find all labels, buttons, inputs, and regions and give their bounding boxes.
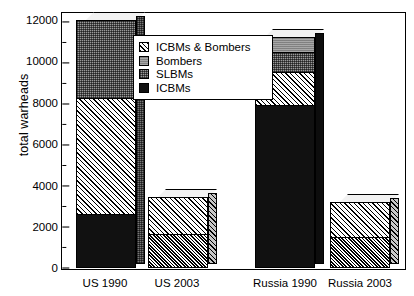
legend-swatch-bombers-icon (139, 56, 149, 66)
bar-chart: total warheads 12000 10000 8000 6000 400… (0, 0, 414, 296)
x-tick-russia-1990: Russia 1990 (253, 277, 317, 289)
y-tick-2000: 2000 (12, 222, 58, 234)
plot-area: ICBMs & Bombers Bombers SLBMs ICBMs (61, 12, 406, 270)
y-axis-tick-labels: 12000 10000 8000 6000 4000 2000 0 (6, 0, 58, 296)
legend-item-slbms: SLBMs (139, 68, 265, 81)
bar-side-face-russia-2003 (390, 198, 399, 264)
segment-us-2003-icbms-bombers-upper (149, 198, 207, 234)
legend-label-icbms: ICBMs (156, 82, 191, 94)
segment-us-1990-icbms-bombers (77, 98, 135, 214)
legend-swatch-icbms-icon (139, 83, 149, 93)
y-tick-0: 0 (12, 263, 58, 275)
bar-us-1990 (76, 12, 136, 268)
y-tick-10000: 10000 (12, 56, 58, 68)
legend: ICBMs & Bombers Bombers SLBMs ICBMs (133, 35, 273, 100)
legend-label-slbms: SLBMs (156, 68, 193, 80)
segment-russia-2003-icbms-bombers-lower (331, 237, 389, 268)
legend-item-bombers: Bombers (139, 54, 265, 67)
segment-russia-2003-icbms-bombers-upper (331, 203, 389, 237)
segment-us-2003-icbms-bombers-lower (149, 234, 207, 268)
legend-swatch-icbms-bombers-icon (139, 42, 149, 52)
segment-us-1990-slbms (77, 21, 135, 98)
segment-russia-1990-icbms (256, 105, 314, 268)
y-tick-6000: 6000 (12, 139, 58, 151)
bar-russia-2003 (330, 12, 390, 268)
x-tick-us-2003: US 2003 (155, 277, 200, 289)
bar-side-face-us-2003 (208, 193, 217, 264)
legend-item-icbms: ICBMs (139, 81, 265, 94)
bar-side-face-russia-1990 (315, 33, 324, 264)
legend-item-icbms-bombers: ICBMs & Bombers (139, 41, 265, 54)
legend-label-bombers: Bombers (156, 55, 202, 67)
x-tick-russia-2003: Russia 2003 (328, 277, 392, 289)
legend-label-icbms-bombers: ICBMs & Bombers (156, 41, 251, 53)
bar-front-us-2003 (148, 197, 208, 268)
legend-swatch-slbms-icon (139, 69, 149, 79)
bar-front-us-1990 (76, 20, 136, 268)
bar-front-russia-2003 (330, 202, 390, 268)
segment-us-1990-icbms (77, 214, 135, 268)
x-tick-us-1990: US 1990 (83, 277, 128, 289)
y-tick-8000: 8000 (12, 98, 58, 110)
y-tick-4000: 4000 (12, 181, 58, 193)
y-tick-12000: 12000 (12, 15, 58, 27)
